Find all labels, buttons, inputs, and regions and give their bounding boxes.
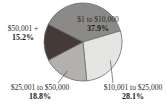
pie-chart: $1 to $10,000 37.9% $10,001 to $25,000 2… bbox=[0, 0, 167, 104]
slice-value-25001-to-50000: 18.8% bbox=[29, 92, 51, 101]
slice-value-1-to-10000: 37.9% bbox=[87, 24, 109, 33]
slice-label-25001-to-50000: $25,001 to $50,000 bbox=[11, 83, 70, 92]
slice-value-10001-to-25000: 28.1% bbox=[122, 92, 144, 101]
slice-label-10001-to-25000: $10,001 to $25,000 bbox=[104, 83, 163, 92]
slice-value-50001-plus: 15.2% bbox=[12, 33, 34, 42]
slice-label-50001-plus: $50,001 + bbox=[8, 24, 38, 33]
slice-label-1-to-10000: $1 to $10,000 bbox=[77, 15, 119, 24]
